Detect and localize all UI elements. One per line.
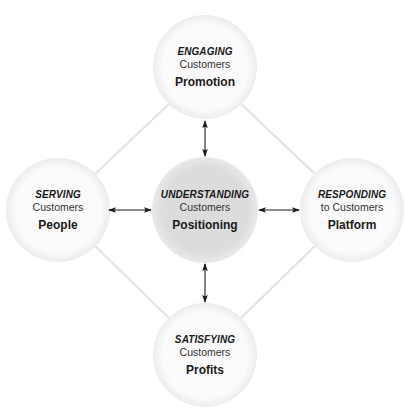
node-key: Positioning	[172, 218, 237, 232]
node-verb: ENGAGING	[177, 46, 232, 57]
node-sub: Customers	[180, 201, 231, 213]
line-bottom-right	[240, 245, 316, 319]
node-verb: UNDERSTANDING	[161, 189, 249, 200]
node-understanding: UNDERSTANDING Customers Positioning	[152, 157, 258, 263]
node-sub: Customers	[33, 201, 84, 213]
node-engaging: ENGAGING Customers Promotion	[153, 15, 257, 119]
line-top-left	[94, 103, 170, 175]
node-sub: Customers	[180, 346, 231, 358]
node-key: People	[38, 218, 77, 232]
node-verb: SERVING	[35, 189, 81, 200]
node-satisfying: SATISFYING Customers Profits	[153, 303, 257, 407]
node-verb: SATISFYING	[175, 334, 235, 345]
line-bottom-left	[94, 245, 170, 319]
node-sub: Customers	[180, 58, 231, 70]
node-responding: RESPONDING to Customers Platform	[300, 158, 404, 262]
node-key: Platform	[328, 218, 377, 232]
node-serving: SERVING Customers People	[6, 158, 110, 262]
node-sub: to Customers	[321, 201, 383, 213]
node-verb: RESPONDING	[318, 189, 386, 200]
node-key: Promotion	[175, 75, 235, 89]
node-key: Profits	[186, 363, 224, 377]
line-top-right	[240, 103, 316, 175]
